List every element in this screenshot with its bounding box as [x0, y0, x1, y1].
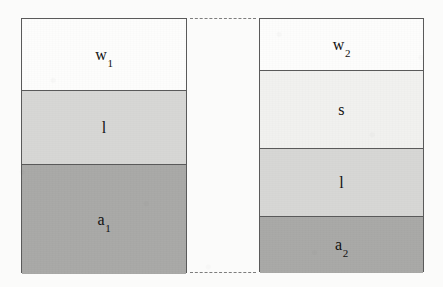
- band-label-a1: a1: [97, 212, 110, 228]
- bar-left: w1 l a1: [21, 18, 187, 273]
- band-label-a2: a2: [335, 237, 348, 253]
- stacked-bar-diagram: w1 l a1 w2 s l a2: [0, 0, 443, 287]
- band-a2: a2: [260, 217, 423, 273]
- band-label-l-right: l: [339, 175, 344, 191]
- dashed-connector-top: [190, 18, 256, 19]
- band-l-right: l: [260, 149, 423, 217]
- band-a1: a1: [22, 165, 186, 274]
- band-w2: w2: [260, 19, 423, 71]
- band-label-w2: w2: [333, 37, 351, 53]
- band-label-l-left: l: [102, 120, 107, 136]
- bar-right: w2 s l a2: [259, 18, 424, 272]
- dashed-connector-bottom: [190, 272, 256, 273]
- band-w1: w1: [22, 19, 186, 91]
- band-label-w1: w1: [95, 47, 113, 63]
- band-label-s: s: [338, 102, 345, 118]
- band-l-left: l: [22, 91, 186, 165]
- band-s: s: [260, 71, 423, 149]
